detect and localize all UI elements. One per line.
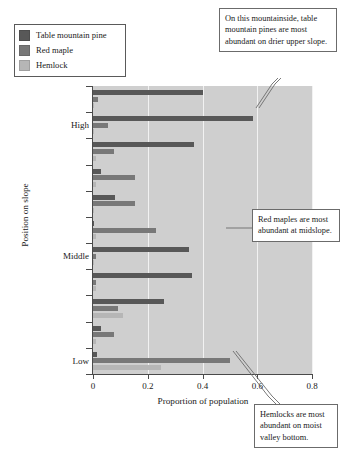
y-tick-label-high: High <box>71 120 89 130</box>
bar-hemlock-pos-5 <box>93 208 94 213</box>
bar-table-mountain-pine-pos-10 <box>93 326 101 331</box>
legend-swatch-hemlock <box>19 60 30 71</box>
bar-red-maple-pos-5 <box>93 201 135 206</box>
y-axis-title: Position on slope <box>20 145 30 285</box>
bar-red-maple-pos-3 <box>93 149 114 154</box>
chart-legend: Table mountain pine Red maple Hemlock <box>14 24 126 77</box>
legend-swatch-table-mountain-pine <box>19 30 30 41</box>
bar-table-mountain-pine-pos-4 <box>93 169 101 174</box>
bar-red-maple-pos-7 <box>93 254 96 259</box>
y-tick <box>86 269 92 270</box>
y-tick <box>86 295 92 296</box>
y-tick <box>86 138 92 139</box>
bar-hemlock-pos-6 <box>93 234 96 239</box>
y-tick <box>86 374 92 375</box>
bar-hemlock-pos-10 <box>93 339 96 344</box>
x-tick <box>257 374 258 379</box>
x-tick <box>148 374 149 379</box>
bar-red-maple-pos-2 <box>93 123 108 128</box>
bar-table-mountain-pine-pos-1 <box>93 90 203 95</box>
bar-table-mountain-pine-pos-8 <box>93 273 192 278</box>
legend-swatch-red-maple <box>19 45 30 56</box>
callout-hemlock: Hemlocks are most abundant on moist vall… <box>254 404 338 448</box>
bar-hemlock-pos-1 <box>93 103 94 108</box>
bar-red-maple-pos-4 <box>93 175 135 180</box>
x-tick-label: 0.2 <box>142 381 153 391</box>
bar-table-mountain-pine-pos-2 <box>93 116 253 121</box>
y-tick <box>86 112 92 113</box>
callout-red-maple: Red maples are most abundant at midslope… <box>252 209 340 242</box>
bar-table-mountain-pine-pos-7 <box>93 247 189 252</box>
bar-hemlock-pos-2 <box>93 129 94 134</box>
bar-table-mountain-pine-pos-11 <box>93 352 97 357</box>
bar-table-mountain-pine-pos-5 <box>93 195 115 200</box>
y-tick <box>86 217 92 218</box>
x-tick-label: 0.8 <box>306 381 317 391</box>
y-tick <box>86 243 92 244</box>
bar-hemlock-pos-11 <box>93 365 161 370</box>
figure-bar-chart: Table mountain pine Red maple Hemlock 00… <box>0 0 344 470</box>
bar-red-maple-pos-1 <box>93 97 98 102</box>
legend-item-red-maple: Red maple <box>19 43 121 58</box>
legend-item-table-mountain-pine: Table mountain pine <box>19 28 121 43</box>
x-tick <box>203 374 204 379</box>
gridline <box>203 86 204 374</box>
y-tick <box>86 191 92 192</box>
x-tick <box>312 374 313 379</box>
x-tick <box>93 374 94 379</box>
bar-table-mountain-pine-pos-3 <box>93 142 194 147</box>
legend-label-table-mountain-pine: Table mountain pine <box>36 30 107 41</box>
y-tick <box>86 165 92 166</box>
bar-red-maple-pos-8 <box>93 280 96 285</box>
bar-hemlock-pos-4 <box>93 182 96 187</box>
bar-hemlock-pos-3 <box>93 156 96 161</box>
bar-table-mountain-pine-pos-6 <box>93 221 94 226</box>
legend-item-hemlock: Hemlock <box>19 58 121 73</box>
legend-label-hemlock: Hemlock <box>36 60 68 71</box>
legend-label-red-maple: Red maple <box>36 45 73 56</box>
x-tick-label: 0.6 <box>252 381 263 391</box>
bar-red-maple-pos-6 <box>93 228 156 233</box>
bar-hemlock-pos-7 <box>93 260 94 265</box>
x-tick-label: 0 <box>91 381 96 391</box>
bar-hemlock-pos-8 <box>93 286 96 291</box>
bar-red-maple-pos-11 <box>93 358 230 363</box>
bar-hemlock-pos-9 <box>93 313 123 318</box>
bar-red-maple-pos-10 <box>93 332 114 337</box>
bar-red-maple-pos-9 <box>93 306 118 311</box>
y-tick-label-middle: Middle <box>63 251 89 261</box>
y-tick <box>86 322 92 323</box>
x-tick-label: 0.4 <box>197 381 208 391</box>
y-tick <box>86 348 92 349</box>
bar-table-mountain-pine-pos-9 <box>93 299 164 304</box>
callout-table-mountain-pine: On this mountainside, table mountain pin… <box>219 8 337 52</box>
y-axis-line <box>92 86 93 375</box>
y-tick <box>86 86 92 87</box>
y-tick-label-low: Low <box>73 356 90 366</box>
